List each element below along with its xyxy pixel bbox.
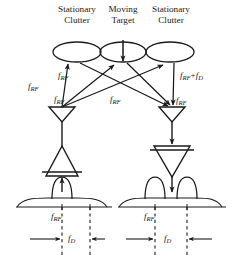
- freq-label-tx-to-left-clutter: fRF: [28, 82, 39, 91]
- rx-spectrum-clutter-lobe: [145, 177, 165, 199]
- ray-right-clutter-to-rx: [173, 63, 174, 105]
- freq-label-target-to-rx: fRF+fD: [180, 71, 203, 80]
- transmit-antenna-icon: [49, 107, 75, 122]
- radar-doppler-diagram: Stationary Clutter Moving Target Station…: [0, 0, 235, 266]
- freq-label-tx-to-target: fRF: [58, 71, 69, 80]
- tx-spectrum-f-d-label: fD: [68, 234, 75, 243]
- tx-spectrum-f-rf-label: fRF: [51, 212, 62, 221]
- ray-left-clutter-to-rx: [80, 63, 168, 106]
- ray-tx-to-moving-target: [62, 65, 114, 107]
- freq-label-tx-to-right-clutter: fRF: [54, 95, 65, 104]
- rx-spectrum-pedestal: [119, 198, 222, 207]
- stationary-clutter-left-shape: [53, 42, 101, 62]
- receive-antenna-icon: [159, 107, 185, 122]
- diagram-canvas: [0, 0, 235, 266]
- rx-spectrum-f-rf-label: fRF: [144, 212, 155, 221]
- rx-spectrum-target-lobe: [177, 177, 197, 199]
- ray-moving-target-to-rx: [127, 63, 170, 105]
- stationary-clutter-right-shape: [146, 42, 194, 62]
- rx-spectrum-f-d-label: fD: [164, 234, 171, 243]
- freq-label-left-clutter-to-rx: fRF: [110, 95, 121, 104]
- freq-label-right-clutter-to-rx: fRF: [176, 96, 187, 105]
